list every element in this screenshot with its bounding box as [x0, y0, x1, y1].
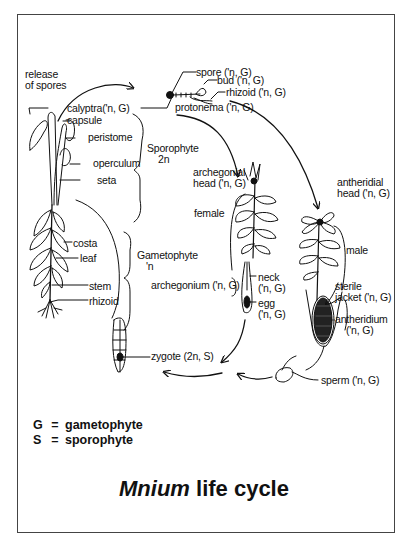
title-rest: life cycle [190, 476, 289, 501]
arrow-from-sperm [238, 374, 272, 379]
arrow-to-male [230, 101, 318, 208]
label-costa: costa [73, 238, 97, 249]
label-calyptra: calyptra('n, G) [67, 103, 130, 114]
gametophyte-brace [124, 232, 131, 330]
legend-value: gametophyte [65, 418, 143, 433]
legend-key: S [33, 433, 45, 448]
legend-row-g: G=gametophyte [33, 418, 143, 433]
label-sterile-jacket-2: jacket ('n, G) [335, 292, 391, 303]
label-egg-2: ('n, G) [258, 309, 285, 320]
label-seta: seta [97, 175, 116, 186]
label-archegonium: archegonium ('n, G) [151, 280, 240, 291]
label-antheridium-2: ('n, G) [346, 325, 373, 336]
legend-row-s: S=sporophyte [33, 433, 143, 448]
legend-equals: = [45, 433, 65, 448]
label-rhizoid-plant: rhizoid [89, 296, 119, 307]
label-antheridial-head-2: head ('n, G) [337, 188, 390, 199]
arrow-zygote-cycle [164, 372, 222, 377]
sperm-drawing [276, 346, 324, 382]
label-operculum: operculum [93, 158, 140, 169]
label-protonema: protonema ('n, G) [175, 102, 254, 113]
label-leaf: leaf [80, 253, 96, 264]
label-release-of-spores-2: of spores [25, 80, 66, 91]
label-archegonial-head-2: head ('n, G) [193, 178, 246, 189]
label-peristome: peristome [88, 132, 132, 143]
label-sporophyte: Sporophyte [147, 143, 199, 154]
mature-moss-plant [29, 108, 88, 318]
label-capsule: capsule [67, 115, 102, 126]
legend-key: G [33, 418, 45, 433]
label-stem: stem [89, 281, 111, 292]
label-rhizoid-protonema: rhizoid ('n, G) [226, 87, 286, 98]
arrow-to-zygote [222, 320, 245, 362]
label-gametophyte-ploidy: 'n [146, 261, 153, 272]
label-sporophyte-ploidy: 2n [158, 154, 169, 165]
legend-value: sporophyte [65, 433, 133, 448]
label-female: female [194, 208, 224, 219]
legend-equals: = [45, 418, 65, 433]
legend: G=gametophyte S=sporophyte [33, 418, 143, 448]
label-zygote: zygote (2n, S) [151, 351, 214, 362]
diagram-title: Mnium life cycle [0, 476, 408, 502]
title-genus: Mnium [119, 476, 190, 501]
label-sperm: sperm ('n, G) [321, 375, 379, 386]
label-neck-2: ('n, G) [258, 283, 285, 294]
label-bud: bud ('n, G) [217, 75, 264, 86]
label-male: male [346, 245, 368, 256]
zygote-drawing [113, 318, 150, 372]
